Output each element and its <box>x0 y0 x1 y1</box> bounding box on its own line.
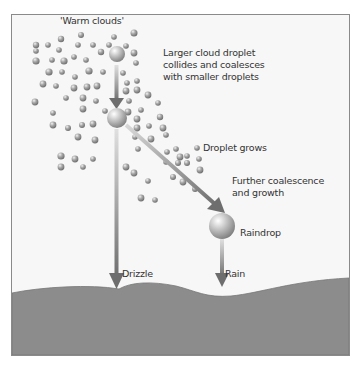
drizzle-label: Drizzle <box>122 268 153 280</box>
warm-clouds-title: 'Warm clouds' <box>60 15 124 27</box>
raindrop-label: Raindrop <box>240 227 281 239</box>
drizzle-arrow <box>109 129 124 289</box>
growing-droplet <box>107 108 127 128</box>
large-droplet-label: Larger cloud droplet collides and coales… <box>163 47 265 83</box>
raindrop <box>209 213 235 239</box>
larger-cloud-droplet <box>109 46 125 62</box>
ground <box>12 278 349 355</box>
droplet-grows-label: Droplet grows <box>203 142 267 154</box>
rain-label: Rain <box>225 268 245 280</box>
further-growth-label: Further coalescence and growth <box>232 175 324 199</box>
